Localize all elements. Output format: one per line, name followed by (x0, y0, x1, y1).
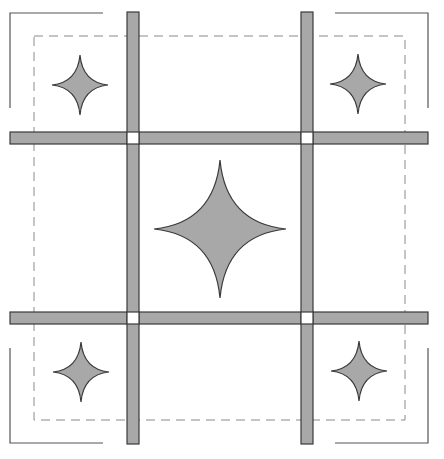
cornerstone (301, 312, 313, 324)
corner-bracket-top-right (335, 13, 428, 108)
star-shapes (52, 54, 387, 402)
star-top-right (330, 54, 386, 114)
corner-bracket-bottom-right (335, 348, 428, 443)
star-bottom-right (331, 341, 387, 401)
star-bottom-left (53, 342, 109, 402)
star-top-left (52, 55, 108, 115)
vertical-bar-left (127, 12, 139, 444)
cornerstone (127, 312, 139, 324)
vertical-bar-right (301, 12, 313, 444)
star-center (154, 160, 286, 298)
cornerstone (127, 132, 139, 144)
cornerstone (301, 132, 313, 144)
horizontal-bar-top (10, 132, 428, 144)
horizontal-bar-bottom (10, 312, 428, 324)
quilt-diagram (0, 0, 444, 459)
